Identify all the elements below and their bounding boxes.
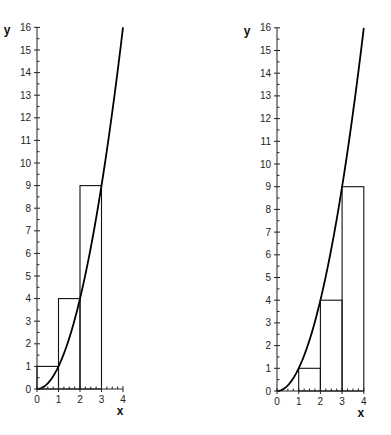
x-tick-label: 3 (339, 396, 345, 407)
y-tick-label: 2 (25, 338, 31, 349)
y-tick-label: 8 (25, 203, 31, 214)
y-tick-label: 14 (20, 67, 32, 78)
y-tick-label: 10 (20, 158, 32, 169)
x-tick-label: 2 (77, 394, 83, 405)
y-tick-label: 15 (20, 45, 32, 56)
y-tick-label: 11 (261, 136, 272, 147)
x-axis-label: x (357, 406, 364, 420)
x-tick-label: 1 (296, 396, 302, 407)
axes: 01234567891011121314151601234xy (4, 22, 127, 418)
y-tick-label: 8 (265, 204, 271, 215)
y-tick-label: 4 (25, 293, 31, 304)
y-tick-label: 0 (25, 384, 31, 395)
y-tick-label: 1 (265, 363, 271, 374)
x-tick-label: 3 (99, 394, 105, 405)
y-tick-label: 3 (25, 316, 31, 327)
x-tick-label: 0 (274, 396, 280, 407)
riemann-rectangle (37, 366, 59, 389)
x-tick-label: 0 (34, 394, 40, 405)
y-tick-label: 5 (265, 272, 271, 283)
riemann-rectangle (320, 300, 342, 391)
riemann-rectangle (299, 368, 321, 391)
y-axis-label: y (244, 24, 251, 38)
y-tick-label: 1 (25, 361, 31, 372)
y-tick-label: 6 (25, 248, 31, 259)
y-tick-label: 11 (21, 135, 32, 146)
y-tick-label: 13 (20, 90, 32, 101)
riemann-rectangle (342, 187, 364, 391)
riemann-sum-charts: 01234567891011121314151601234xy 01234567… (0, 0, 391, 435)
y-tick-label: 7 (265, 227, 271, 238)
x-axis-label: x (117, 404, 124, 418)
y-axis-label: y (4, 23, 11, 37)
lower-sum-chart: 01234567891011121314151601234xy (244, 22, 367, 420)
y-tick-label: 2 (265, 340, 271, 351)
y-tick-label: 15 (260, 45, 272, 56)
y-tick-label: 10 (260, 159, 272, 170)
y-tick-label: 3 (265, 317, 271, 328)
y-tick-label: 4 (265, 295, 271, 306)
y-tick-label: 16 (20, 22, 32, 33)
y-tick-label: 16 (260, 22, 272, 33)
y-tick-label: 12 (20, 112, 32, 123)
y-tick-label: 0 (265, 386, 271, 397)
y-tick-label: 5 (25, 271, 31, 282)
axes: 01234567891011121314151601234xy (244, 22, 367, 420)
upper-sum-chart: 01234567891011121314151601234xy (4, 22, 127, 418)
y-tick-label: 7 (25, 225, 31, 236)
y-tick-label: 12 (260, 113, 272, 124)
y-tick-label: 13 (260, 90, 272, 101)
y-tick-label: 6 (265, 249, 271, 260)
y-tick-label: 9 (265, 181, 271, 192)
riemann-rectangles (299, 187, 364, 391)
riemann-rectangles (37, 186, 102, 389)
y-tick-label: 14 (260, 68, 272, 79)
x-tick-label: 1 (56, 394, 62, 405)
y-tick-label: 9 (25, 180, 31, 191)
x-tick-label: 2 (318, 396, 324, 407)
